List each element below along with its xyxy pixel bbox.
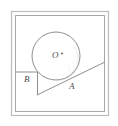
label-point-b-text: B bbox=[24, 74, 30, 84]
geometry-figure: O B A bbox=[0, 0, 118, 126]
inner-frame-rect bbox=[16, 16, 105, 112]
label-point-a-text: A bbox=[69, 81, 75, 91]
label-point-a: A bbox=[69, 82, 75, 91]
center-point-dot bbox=[61, 53, 63, 55]
geometry-canvas bbox=[0, 0, 118, 126]
label-point-b: B bbox=[24, 75, 30, 84]
label-center-o-text: O bbox=[52, 50, 59, 60]
scan-artifact-arcs bbox=[56, 46, 78, 80]
outer-frame-rect bbox=[12, 12, 109, 116]
label-center-o: O bbox=[52, 51, 59, 60]
